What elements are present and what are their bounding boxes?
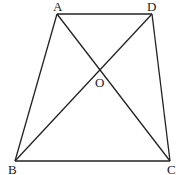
label-c: C	[167, 162, 176, 175]
diagonal-ac	[57, 14, 170, 161]
label-d: D	[147, 0, 156, 14]
segment-dc	[152, 14, 170, 161]
trapezoid-diagram: A D O B C	[0, 0, 181, 175]
label-a: A	[53, 0, 63, 14]
label-b: B	[8, 162, 17, 175]
label-o: O	[95, 75, 104, 90]
